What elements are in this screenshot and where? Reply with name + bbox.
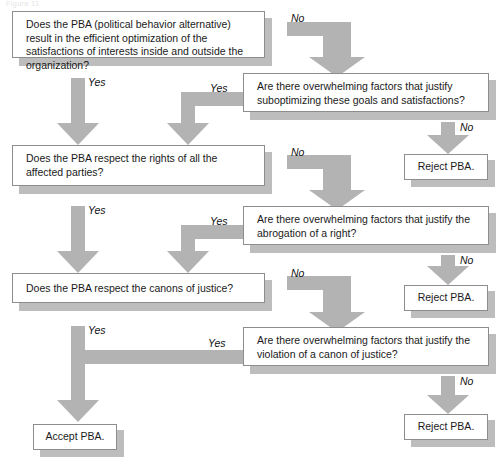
node-reject1-text: Reject PBA. [413,160,479,174]
edge-label-q5-yes: Yes [88,324,106,336]
arrow-q1-no-to-q2 [287,22,365,77]
node-q5-canons-question[interactable]: Does the PBA respect the canons of justi… [12,273,265,303]
edge-label-q2-no: No [460,121,473,133]
node-q2-text: Are there overwhelming factors that just… [257,80,479,107]
shadow-accept-bottom [40,450,124,457]
node-reject2-text: Reject PBA. [413,291,479,305]
shadow-q6-bottom [250,366,496,374]
edge-label-q4-yes: Yes [210,215,228,227]
shadow-q4-right [489,213,496,253]
edge-label-q6-yes: Yes [208,337,226,349]
arrow-q1-yes-to-q3 [57,78,99,145]
flowchart-canvas: Figure 11 [0,0,504,464]
shadow-reject3-bottom [411,440,495,447]
arrow-q3-no-to-q4 [287,155,365,210]
node-q6-text: Are there overwhelming factors that just… [257,334,479,361]
arrow-q2-yes-to-q3 [167,92,246,145]
edge-label-q2-yes: Yes [210,82,228,94]
node-q3-rights-question[interactable]: Does the PBA respect the rights of all t… [12,145,265,186]
shadow-reject1-bottom [411,180,495,187]
node-q2-suboptimizing-question[interactable]: Are there overwhelming factors that just… [243,73,489,112]
node-accept-pba[interactable]: Accept PBA. [33,424,117,450]
arrow-q3-yes-to-q5 [57,206,99,273]
shadow-q4-bottom [250,245,496,253]
figure-caption: Figure 11 [6,0,40,7]
shadow-reject2-bottom [411,311,495,318]
arrow-q6-yes-to-accept [85,350,245,364]
shadow-q6-right [489,334,496,374]
shadow-q2-bottom [250,112,496,120]
node-q1-text: Does the PBA (political behavior alterna… [26,18,255,72]
node-reject3-text: Reject PBA. [413,420,479,434]
shadow-q1-right [265,18,272,66]
node-accept-text: Accept PBA. [42,430,108,444]
node-q1-optimization-question[interactable]: Does the PBA (political behavior alterna… [12,11,265,58]
node-q3-text: Does the PBA respect the rights of all t… [26,152,255,179]
node-reject-pba-2[interactable]: Reject PBA. [404,285,488,311]
edge-label-q1-no: No [291,12,304,24]
node-reject-pba-3[interactable]: Reject PBA. [404,414,488,440]
shadow-q3-bottom [19,186,272,194]
shadow-q5-right [265,280,272,311]
shadow-reject1-right [488,160,495,187]
arrow-q4-yes-to-q5 [167,225,246,273]
arrow-q5-yes-to-accept [57,326,99,422]
edge-label-q5-no: No [291,267,304,279]
shadow-q5-bottom [19,303,272,311]
node-q6-violation-question[interactable]: Are there overwhelming factors that just… [243,327,489,366]
shadow-q3-right [265,152,272,194]
node-q4-abrogation-question[interactable]: Are there overwhelming factors that just… [243,206,489,245]
arrow-q5-no-to-q6 [287,276,365,332]
node-q5-text: Does the PBA respect the canons of justi… [26,282,255,296]
node-reject-pba-1[interactable]: Reject PBA. [404,154,488,180]
shadow-reject3-right [488,420,495,447]
edge-label-q4-no: No [460,254,473,266]
edge-label-q3-yes: Yes [88,204,106,216]
shadow-accept-right [117,430,124,457]
edge-label-q1-yes: Yes [88,76,106,88]
shadow-q2-right [489,80,496,120]
shadow-reject2-right [488,291,495,318]
edge-label-q3-no: No [291,146,304,158]
edge-label-q6-no: No [460,375,473,387]
node-q4-text: Are there overwhelming factors that just… [257,213,479,240]
